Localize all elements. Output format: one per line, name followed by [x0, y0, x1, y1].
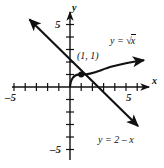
x-tick-label-positive-5: 5: [126, 92, 132, 103]
point-label-1-1: (1, 1): [77, 51, 99, 61]
y-tick-label-positive-5: 5: [55, 19, 61, 30]
equation-label-sqrt: y = √x: [110, 36, 136, 46]
y-axis-label: y: [72, 3, 76, 13]
plot-canvas: [0, 0, 164, 168]
y-tick-label-negative-5: –5: [50, 144, 61, 155]
x-axis-label: x: [152, 76, 157, 86]
equation-sqrt-lhs: y =: [110, 35, 124, 46]
equation-label-line: y = 2 – x: [98, 135, 134, 145]
math-graph-figure: y x 5 –5 5 –5 (1, 1) y = √x y = 2 – x: [0, 0, 164, 168]
equation-sqrt-radicand: x: [131, 34, 136, 46]
x-tick-label-negative-5: –5: [5, 92, 16, 103]
intersection-point-marker: [78, 72, 84, 78]
